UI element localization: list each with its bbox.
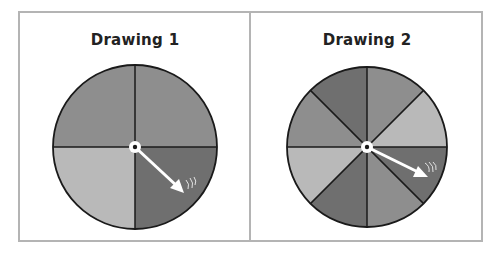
sector bbox=[135, 65, 217, 147]
sector bbox=[53, 147, 135, 229]
sector bbox=[53, 65, 135, 147]
spinners-diagram bbox=[0, 0, 501, 254]
spinner-drawing-1 bbox=[53, 65, 217, 229]
spinner-drawing-2 bbox=[287, 67, 447, 227]
